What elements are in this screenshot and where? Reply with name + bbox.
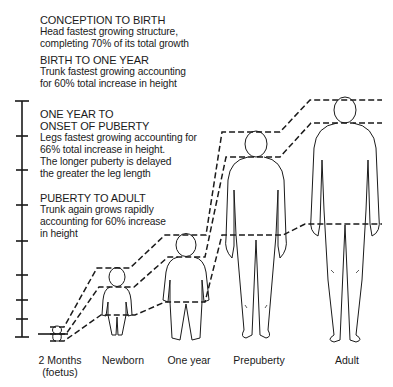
head-top-line [50, 100, 382, 327]
height-scale [15, 101, 29, 337]
stage-label-foetus: 2 Months (foetus) [35, 354, 85, 378]
neck-line [50, 123, 382, 334]
stage-label-adult: Adult [325, 354, 369, 366]
adult-figure [311, 97, 380, 342]
stage-label-text: Newborn [96, 354, 150, 366]
stage-label-text: 2 Months [35, 354, 85, 366]
stage-label-prepuberty: Prepuberty [228, 354, 290, 366]
crotch-line [50, 224, 382, 341]
stage-sublabel-text: (foetus) [35, 366, 85, 378]
stage-label-newborn: Newborn [96, 354, 150, 366]
stage-label-text: Prepuberty [228, 354, 290, 366]
stage-label-one-year: One year [163, 354, 215, 366]
stage-label-text: Adult [325, 354, 369, 366]
newborn-figure [102, 268, 132, 336]
growth-diagram [0, 0, 393, 387]
proportion-lines [50, 100, 382, 341]
figures [53, 97, 380, 342]
one-year-figure [163, 234, 209, 341]
stage-label-text: One year [163, 354, 215, 366]
